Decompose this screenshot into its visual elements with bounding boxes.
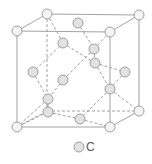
legend-atom-icon <box>74 142 84 152</box>
inner-atom-icon <box>89 44 99 54</box>
inner-atom-icon <box>43 107 53 117</box>
inner-atom-icon <box>43 94 53 104</box>
inner-atom-icon <box>75 114 85 124</box>
corner-atom-icon <box>105 27 115 37</box>
inner-atom-icon <box>58 38 68 48</box>
inner-atom-icon <box>73 18 83 28</box>
corner-atom-icon <box>12 122 22 132</box>
corner-atom-icon <box>12 26 22 36</box>
inner-atom-icon <box>90 58 100 68</box>
corner-atom-icon <box>42 9 52 19</box>
corner-atom-icon <box>134 106 144 116</box>
inner-atom-icon <box>58 75 68 85</box>
inner-atom-icon <box>28 67 38 77</box>
corner-atom-icon <box>134 10 144 20</box>
corner-atom-icon <box>105 122 115 132</box>
inner-atom-icon <box>120 67 130 77</box>
crystal-structure-diagram <box>0 0 152 164</box>
inner-atom-icon <box>105 84 115 94</box>
legend-label: C <box>86 140 95 154</box>
